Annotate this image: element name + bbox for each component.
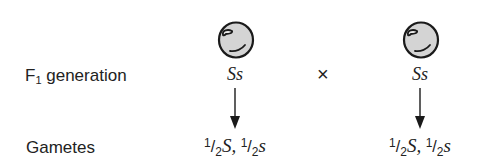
- parent-2-genotype: Ss: [390, 64, 450, 85]
- parent-1-genotype: Ss: [205, 64, 265, 85]
- down-arrow-icon: [229, 88, 241, 130]
- fraction: 1/2: [426, 138, 444, 155]
- gametes-label: Gametes: [26, 138, 95, 158]
- fraction: 1/2: [241, 138, 259, 155]
- parent-2-gametes: 1/2S, 1/2s: [365, 135, 475, 159]
- fraction: 1/2: [389, 138, 407, 155]
- f1-generation-label: F1 generation: [25, 66, 127, 86]
- fraction: 1/2: [204, 138, 222, 155]
- down-arrow-icon: [414, 88, 426, 130]
- round-pea-icon: [399, 18, 441, 60]
- round-pea-icon: [214, 18, 256, 60]
- cross-symbol: ×: [317, 63, 329, 86]
- parent-1-gametes: 1/2S, 1/2s: [180, 135, 290, 159]
